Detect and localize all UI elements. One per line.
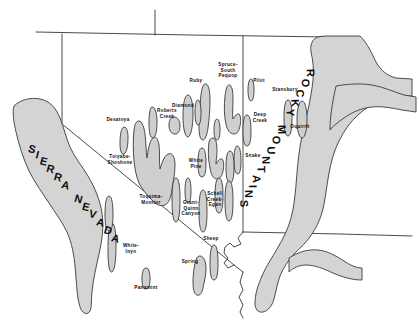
rocky-mountains-letter-14: S (238, 200, 250, 208)
range-label-diamond: Diamond (172, 103, 194, 109)
sierra-nevada-letter-5: A (60, 178, 71, 192)
range-spruce-south-pequop (224, 85, 240, 134)
range-snake-south (226, 151, 234, 183)
range-label-white-pine: White Pine (189, 158, 203, 169)
northern-state-border (36, 32, 360, 37)
range-label-spring: Spring (182, 259, 199, 265)
range-label-stansbury: Stansbury (272, 87, 298, 93)
rocky-mountains-letter-8: U (265, 146, 277, 154)
utah-arizona-border (243, 232, 412, 236)
range-snake (234, 146, 241, 174)
range-schell-creek-egan (225, 181, 233, 221)
rocky-mountains-letter-0: R (305, 69, 317, 77)
range-label-oquirrh: Oquirrh (290, 124, 309, 130)
range-desatoya (120, 127, 128, 154)
range-deep-creek (243, 115, 251, 146)
range-label-sheep: Sheep (203, 236, 219, 242)
range-label-deep-creek: Deep Creek (253, 112, 268, 123)
range-label-roberts-creek: Roberts Creek (157, 108, 177, 119)
range-white-pine (208, 138, 223, 179)
range-unlabeled-north-a (214, 119, 220, 140)
rocky-mountains-south-foot (289, 250, 362, 280)
range-cortez (195, 100, 201, 125)
range-label-panamint: Panamint (134, 285, 157, 291)
rocky-mountains-letter-4: Y (285, 109, 297, 117)
range-label-grant-quinn-canyon: Grant- Quinn Canyon (182, 200, 201, 217)
range-label-white-inyo: White- Inyo (123, 243, 139, 254)
range-label-spruce-south-pequop: Spruce- South Pequop (218, 62, 238, 79)
range-label-schell-creek-egan: Schell Creek- Egan (207, 191, 223, 208)
range-toquima-monitor (172, 178, 180, 222)
range-label-snake: Snake (245, 153, 260, 159)
rocky-mountains-letter-1: O (300, 79, 312, 88)
map-canvas (0, 0, 419, 336)
colorado-river-border (224, 232, 243, 318)
sierra-nevada-letter-6 (68, 193, 71, 197)
range-diamond (183, 95, 193, 137)
rocky-mountains-letter-6: M (276, 125, 288, 134)
range-label-pilot: Pilot (253, 78, 265, 84)
range-sheep (210, 245, 218, 280)
range-label-toquima-monitor: Toquima- Monitor (139, 194, 162, 205)
range-toiyabe-east-lobe (149, 107, 157, 138)
rocky-mountains-letter-12: I (247, 185, 259, 188)
range-label-desatoya: Desatoya (106, 117, 129, 123)
range-label-ruby: Ruby (190, 78, 203, 84)
range-label-toiyabe-shoshone: Toiyabe- Shoshone (107, 154, 132, 165)
physiographic-map: S I E R R A N E V A D A R O C K Y M O U … (0, 0, 419, 336)
rocky-mountains-letter-11: A (251, 175, 263, 183)
rocky-mountains-letter-3: K (290, 99, 302, 107)
rocky-mountains-letter-13: N (243, 190, 255, 198)
rocky-mountains-letter-7: O (270, 136, 282, 145)
rocky-mountains-letter-9: N (260, 156, 272, 164)
rocky-mountains-letter-5 (282, 117, 284, 121)
rocky-mountains-letter-10: T (256, 166, 268, 173)
